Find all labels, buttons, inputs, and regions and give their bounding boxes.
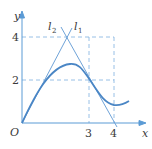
y-tick-4: 4 xyxy=(12,31,19,44)
line-l2 xyxy=(61,27,117,127)
svg-text:2: 2 xyxy=(52,27,56,35)
origin-label: O xyxy=(10,126,19,139)
x-axis-label: x xyxy=(142,127,149,140)
x-tick-3: 3 xyxy=(85,127,92,140)
line-l1-label: l 1 xyxy=(74,20,82,35)
guide-lines xyxy=(22,37,114,123)
x-axis-arrow-icon xyxy=(139,121,146,126)
function-diagram: y x O 3 4 2 4 l 2 l 1 xyxy=(0,0,152,149)
y-axis-arrow-icon xyxy=(20,11,25,18)
x-tick-4: 4 xyxy=(110,127,117,140)
tangent-lines xyxy=(22,27,117,127)
line-l2-label: l 2 xyxy=(48,20,56,35)
axes xyxy=(20,11,147,126)
y-tick-2: 2 xyxy=(12,74,19,87)
y-axis-label: y xyxy=(13,10,21,23)
svg-text:1: 1 xyxy=(78,27,82,35)
function-curve xyxy=(22,64,129,123)
